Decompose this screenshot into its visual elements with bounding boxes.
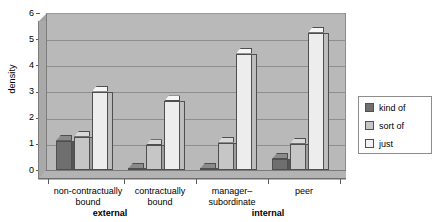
- bar-just: [164, 101, 180, 170]
- bar-just: [236, 54, 252, 170]
- y-tick-label-4: 4: [18, 61, 34, 70]
- x-tick-mark-4: [340, 179, 341, 184]
- legend-swatch-kind-of: [365, 103, 374, 112]
- legend: kind of sort of just: [358, 96, 432, 154]
- bars-layer: [46, 13, 345, 170]
- bar-kind-of: [56, 141, 72, 170]
- y-tick-label-5: 5: [18, 35, 34, 44]
- x-tick-mark-3: [268, 179, 269, 184]
- x-axis-label-peer: peer: [266, 186, 342, 197]
- legend-label-just: just: [379, 139, 393, 149]
- bar-kind-of: [200, 169, 216, 170]
- x-axis-label-manager-subordinate: manager– subordinate: [190, 186, 274, 207]
- bar-sort-of: [290, 144, 306, 170]
- y-axis-title: density: [7, 49, 17, 109]
- bar-just: [308, 33, 324, 170]
- bar-kind-of: [272, 159, 288, 170]
- bar-sort-of: [74, 137, 90, 170]
- y-tick-label-1: 1: [18, 139, 34, 148]
- x-axis-supergroup-internal: internal: [196, 208, 340, 218]
- x-tick-mark-0: [48, 179, 49, 184]
- x-axis-supergroup-external: external: [48, 208, 172, 218]
- y-tick-label-3: 3: [18, 87, 34, 96]
- bar-sort-of: [218, 143, 234, 170]
- legend-label-kind-of: kind of: [379, 103, 406, 113]
- y-tick-label-2: 2: [18, 113, 34, 122]
- y-tick-mark-6: [36, 13, 40, 14]
- y-tick-label-6: 6: [18, 9, 34, 18]
- plot-wall-right-edge: [345, 13, 346, 171]
- bar-group-contractually-bound: [128, 13, 190, 170]
- legend-swatch-sort-of: [365, 121, 374, 130]
- bar-group-manager-subordinate: [200, 13, 262, 170]
- bar-chart: density 6 5 4 3 2 1 0: [0, 0, 436, 222]
- legend-label-sort-of: sort of: [379, 121, 404, 131]
- bar-group-peer: [272, 13, 334, 170]
- legend-swatch-just: [365, 139, 374, 148]
- y-tick-label-0: 0: [18, 166, 34, 175]
- x-tick-mark-1: [124, 179, 125, 184]
- bar-group-non-contractually-bound: [56, 13, 118, 170]
- bar-kind-of: [128, 169, 144, 170]
- x-tick-mark-2: [196, 179, 197, 184]
- bar-sort-of: [146, 145, 162, 170]
- plot-floor-front-edge: [38, 178, 346, 179]
- bar-just: [92, 92, 108, 171]
